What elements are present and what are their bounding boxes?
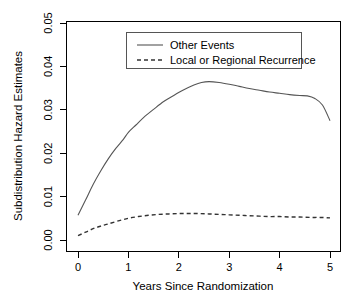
y-tick-label: 0.04 (42, 56, 54, 77)
x-axis-title: Years Since Randomization (133, 280, 274, 292)
y-tick-label: 0.00 (42, 229, 54, 250)
y-tick-label: 0.01 (42, 186, 54, 207)
y-tick-label: 0.03 (42, 99, 54, 120)
x-tick-label: 4 (277, 261, 283, 273)
hazard-estimates-line-chart: 0.000.010.020.030.040.05 012345 Years Si… (0, 0, 358, 306)
legend-label-local-or-regional-recurrence: Local or Regional Recurrence (170, 54, 316, 66)
x-tick-label: 5 (327, 261, 333, 273)
series-line-other-events (78, 82, 330, 216)
y-axis-title: Subdistribution Hazard Estimates (12, 51, 24, 221)
x-tick-label: 1 (125, 261, 131, 273)
x-tick-label: 3 (226, 261, 232, 273)
chart-legend: Other Events Local or Regional Recurrenc… (127, 33, 316, 69)
legend-label-other-events: Other Events (170, 39, 235, 51)
x-axis-ticks: 012345 (75, 252, 333, 274)
y-axis-ticks: 0.000.010.020.030.040.05 (42, 12, 67, 250)
x-tick-label: 0 (75, 261, 81, 273)
x-tick-label: 2 (176, 261, 182, 273)
y-tick-label: 0.05 (42, 12, 54, 33)
chart-figure: 0.000.010.020.030.040.05 012345 Years Si… (0, 0, 358, 306)
series-line-local-or-regional-recurrence (78, 213, 330, 235)
y-tick-label: 0.02 (42, 142, 54, 163)
